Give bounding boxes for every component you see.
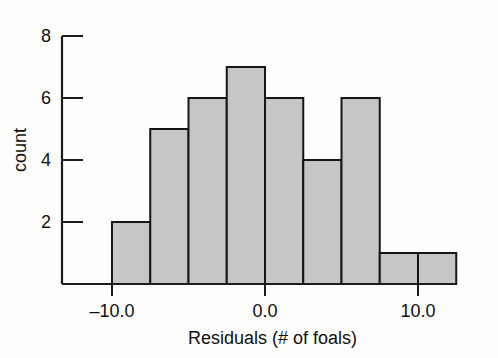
y-axis-tick-label: 8 [41,26,51,46]
x-axis-tick-label: 0.0 [252,301,277,321]
histogram-bar [189,98,227,284]
histogram-bar [380,253,418,284]
y-axis-title: count [10,128,30,172]
histogram-bar [150,129,188,284]
bars-group [112,67,456,284]
y-axis-tick-label: 4 [41,150,51,170]
histogram-bar [112,222,150,284]
y-axis-group: 2468 [41,26,83,284]
y-axis-tick-label: 2 [41,212,51,232]
histogram-bar [265,98,303,284]
histogram-bar [418,253,456,284]
x-axis-title: Residuals (# of foals) [188,328,357,348]
x-axis-tick-label: 10.0 [400,301,435,321]
y-axis-tick-label: 6 [41,88,51,108]
histogram-plot: 2468 –10.00.010.0 Residuals (# of foals)… [0,0,498,358]
histogram-figure: 2468 –10.00.010.0 Residuals (# of foals)… [0,0,498,358]
x-axis-tick-label: –10.0 [89,301,134,321]
x-axis-group: –10.00.010.0 [62,284,455,321]
histogram-bar [303,160,341,284]
histogram-bar [227,67,265,284]
histogram-bar [342,98,380,284]
